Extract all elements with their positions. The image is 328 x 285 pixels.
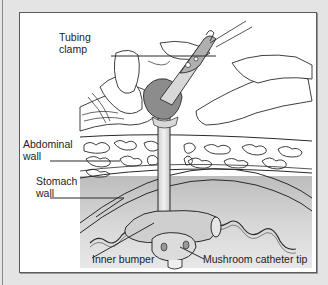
label-inner-bumper: Inner bumper [92, 253, 154, 265]
label-stomach-wall: Stomach wall [36, 175, 77, 199]
label-tubing-clamp: Tubing clamp [59, 31, 91, 55]
label-tubing-clamp-line2: clamp [59, 43, 91, 55]
label-abdominal-wall: Abdominal wall [23, 138, 73, 162]
label-tubing-clamp-line1: Tubing [59, 31, 91, 43]
label-abdominal-wall-line2: wall [23, 150, 73, 162]
label-stomach-wall-line1: Stomach [36, 175, 77, 187]
label-stomach-wall-line2: wall [36, 187, 77, 199]
figure-panel: Tubing clamp Abdominal wall Stomach wall… [19, 12, 317, 273]
label-mushroom-catheter-tip: Mushroom catheter tip [203, 253, 307, 265]
abdominal-wall-layer [80, 135, 312, 178]
left-margin-rule [2, 0, 3, 285]
label-abdominal-wall-line1: Abdominal [23, 138, 73, 150]
